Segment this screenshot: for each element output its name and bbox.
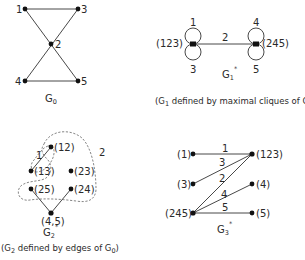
hypergraph-figure: 1 3 2 4 5 G0 (123) (245) 1 3 4 5 2 G1* (… — [0, 0, 305, 260]
node-2 — [49, 42, 54, 47]
edge-label-3: 3 — [219, 157, 225, 168]
node-label-3: 3 — [81, 4, 87, 15]
edge-label-2: 2 — [222, 32, 228, 43]
node-123 — [249, 151, 254, 156]
node-label-3: (3) — [177, 179, 191, 190]
edge-label-5: 5 — [222, 202, 228, 213]
panel-title-g1: G1* — [222, 65, 238, 82]
edge-label-2: 2 — [219, 173, 225, 184]
edge-label-4: 4 — [221, 189, 227, 200]
node-label-2: 2 — [55, 39, 61, 50]
node-label-25: (25) — [34, 184, 55, 195]
node-4 — [23, 79, 28, 84]
node-label-5: (5) — [256, 208, 270, 219]
panel-g3: (1) (3) (245) (123) (4) (5) 1 3 2 4 5 G3… — [165, 143, 283, 237]
node-label-123: (123) — [156, 38, 183, 49]
node-label-245: (245) — [262, 38, 289, 49]
node-label-1: 1 — [16, 4, 22, 15]
region-label-2: 2 — [99, 147, 105, 158]
edge-label-1: 1 — [222, 143, 228, 154]
node-label-12: (12) — [54, 142, 75, 153]
node-label-13: (13) — [34, 166, 55, 177]
node-label-4: 4 — [15, 76, 21, 87]
panel-g0: 1 3 2 4 5 G0 — [15, 4, 87, 106]
node-23 — [69, 169, 74, 174]
loop-label-5: 5 — [253, 64, 259, 75]
node-123 — [190, 42, 196, 47]
loop-label-4: 4 — [253, 17, 259, 28]
node-12 — [49, 145, 54, 150]
node-label-4: (4) — [256, 179, 270, 190]
caption-g2: (G2 defined by edges of G0) — [1, 243, 119, 255]
node-45 — [48, 210, 53, 215]
loop-label-3: 3 — [190, 64, 196, 75]
node-4 — [250, 182, 255, 187]
caption-g1: (G1 defined by maximal cliques of G0) — [155, 96, 305, 108]
node-13 — [29, 169, 34, 174]
node-label-23: (23) — [74, 166, 95, 177]
node-label-1: (1) — [177, 149, 191, 160]
node-25 — [29, 187, 34, 192]
panel-title-g0: G0 — [45, 93, 57, 106]
node-245 — [253, 42, 259, 47]
node-5 — [250, 211, 255, 216]
loop-label-1: 1 — [190, 17, 196, 28]
node-3 — [191, 182, 196, 187]
panel-g2: (12) (13) (23) (25) (24) (4,5) 1 2 G2* (… — [1, 132, 119, 255]
node-label-245: (245) — [165, 208, 192, 219]
node-3 — [76, 7, 81, 12]
node-label-123: (123) — [256, 149, 283, 160]
node-5 — [76, 79, 81, 84]
node-24 — [69, 187, 74, 192]
node-label-24: (24) — [74, 184, 95, 195]
region-label-1: 1 — [36, 150, 42, 161]
node-1 — [191, 152, 196, 157]
panel-title-g3: G3* — [217, 220, 233, 237]
node-label-5: 5 — [81, 76, 87, 87]
panel-g1: (123) (245) 1 3 4 5 2 G1* (G1 defined by… — [155, 17, 305, 108]
node-1 — [23, 7, 28, 12]
node-label-45: (4,5) — [41, 216, 65, 227]
